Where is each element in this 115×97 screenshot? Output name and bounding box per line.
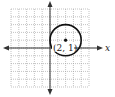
x-axis-left-arrow-icon (3, 46, 9, 51)
y-axis-bottom-arrow-icon (48, 89, 53, 95)
x-axis-label: x (105, 43, 110, 53)
x-axis-right-arrow-icon (97, 46, 103, 51)
coordinate-plane: x (2, 1) (0, 0, 115, 97)
center-point (64, 39, 67, 42)
y-axis-top-arrow-icon (48, 1, 53, 7)
center-point-label: (2, 1) (53, 43, 77, 53)
